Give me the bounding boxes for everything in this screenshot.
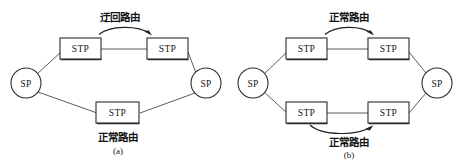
link-spleft-stptopleft — [37, 52, 61, 74]
panel-a-stp-bottom: STP — [96, 102, 140, 124]
stp-box-label: STP — [109, 108, 126, 118]
sp-node-label: SP — [247, 79, 258, 89]
panel-b-stp-top-right: STP — [368, 38, 410, 60]
panel-b-top-route-label: 正常路由 — [329, 11, 369, 23]
link-stpbottomright-spright — [409, 93, 426, 113]
signalling-route-figure: SP SP STP STP STP — [0, 0, 467, 163]
stp-box-label: STP — [380, 108, 397, 118]
stp-box-label: STP — [380, 44, 397, 54]
panel-b-bottom-route-arrow — [310, 125, 373, 134]
panel-b-stp-bottom-left: STP — [286, 102, 328, 124]
route-arrow-curve — [99, 27, 150, 34]
panel-a-top-route-arrow — [99, 27, 152, 35]
panel-b-sp-right: SP — [422, 68, 452, 98]
panel-a-stp-top-right: STP — [147, 38, 189, 60]
panel-a: SP SP STP STP STP — [11, 11, 221, 156]
link-stptopright-spright — [409, 52, 426, 73]
route-arrow-curve — [310, 125, 371, 134]
panel-a-bottom-route-label: 正常路由 — [98, 131, 138, 143]
stp-box-label: STP — [159, 44, 176, 54]
panel-a-sp-left: SP — [11, 68, 41, 98]
panel-a-top-route-label: 迂回路由 — [100, 11, 140, 23]
panel-a-stp-top-left: STP — [60, 38, 102, 60]
panel-b-bottom-route-label: 正常路由 — [329, 136, 369, 148]
panel-b-stp-bottom-right: STP — [368, 102, 410, 124]
panel-b: SP SP STP STP STP STP — [238, 11, 452, 160]
diagram-canvas: SP SP STP STP STP — [0, 0, 467, 163]
stp-box-label: STP — [298, 44, 315, 54]
link-stpbottom-spright — [140, 93, 195, 113]
link-spleft-stpbottomleft — [264, 92, 287, 113]
panel-b-caption: (b) — [344, 150, 355, 160]
sp-node-label: SP — [200, 79, 211, 89]
stp-box-label: STP — [298, 108, 315, 118]
sp-node-label: SP — [431, 79, 442, 89]
link-spleft-stptopleft — [264, 52, 287, 74]
panel-b-sp-left: SP — [238, 68, 268, 98]
route-arrow-curve — [325, 27, 372, 34]
link-spleft-stpbottom — [38, 92, 97, 113]
panel-b-top-route-arrow — [325, 27, 374, 35]
panel-b-stp-top-left: STP — [286, 38, 328, 60]
stp-box-label: STP — [72, 44, 89, 54]
panel-a-sp-right: SP — [191, 68, 221, 98]
sp-node-label: SP — [20, 79, 31, 89]
link-stptopright-spright — [188, 52, 196, 73]
panel-a-caption: (a) — [113, 146, 123, 156]
